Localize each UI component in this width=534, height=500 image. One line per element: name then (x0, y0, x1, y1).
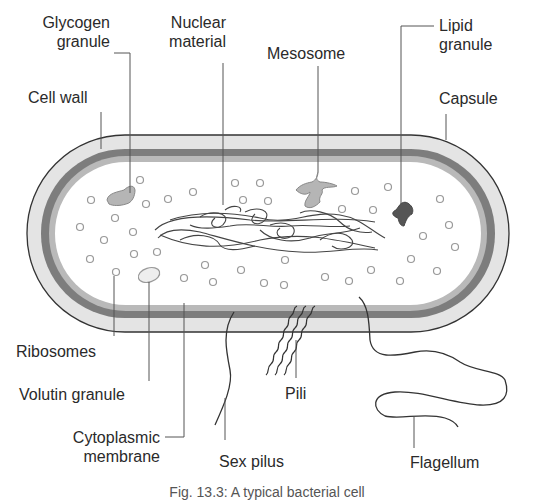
label-glycogen-line1: Glycogen (15, 13, 110, 32)
label-lipid-granule: Lipid granule (439, 16, 492, 54)
label-volutin-granule: Volutin granule (19, 385, 125, 404)
label-lipid-line1: Lipid (439, 16, 492, 35)
label-sex-pilus: Sex pilus (219, 452, 284, 471)
label-nuclear-line2: material (140, 32, 226, 51)
label-cell-wall: Cell wall (28, 88, 88, 107)
label-glycogen-line2: granule (15, 32, 110, 51)
label-ribosomes: Ribosomes (16, 342, 96, 361)
figure-caption: Fig. 13.3: A typical bacterial cell (0, 484, 534, 500)
label-glycogen-granule: Glycogen granule (15, 13, 110, 51)
label-cytoplasmic-line2: membrane (40, 447, 160, 466)
label-cytoplasmic-membrane: Cytoplasmic membrane (40, 428, 160, 466)
label-mesosome: Mesosome (267, 44, 345, 63)
label-nuclear-line1: Nuclear (140, 13, 226, 32)
label-lipid-line2: granule (439, 35, 492, 54)
label-nuclear-material: Nuclear material (140, 13, 226, 51)
label-pili: Pili (285, 384, 306, 403)
label-cytoplasmic-line1: Cytoplasmic (40, 428, 160, 447)
label-capsule: Capsule (439, 89, 498, 108)
label-flagellum: Flagellum (410, 453, 479, 472)
